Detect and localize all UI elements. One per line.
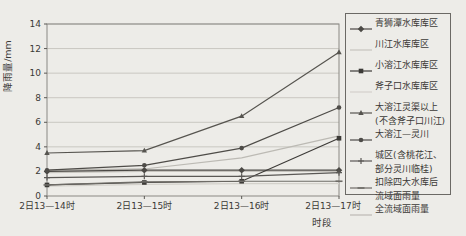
legend-entry-2: 小溶江水库库区 bbox=[349, 59, 448, 80]
series-line-1 bbox=[47, 171, 339, 172]
svg-text:2日13—15时: 2日13—15时 bbox=[117, 200, 173, 211]
legend-swatch-plus-marker bbox=[349, 151, 375, 170]
series-line-5 bbox=[47, 108, 339, 171]
legend-entry-4: 大溶江灵渠以上(不含斧子口川江) bbox=[349, 101, 448, 128]
svg-text:6: 6 bbox=[35, 117, 41, 127]
legend-swatch-diamond-marker bbox=[349, 19, 375, 38]
x-axis-ticks-labels: 2日13—14时2日13—15时2日13—16时2日13—17时 bbox=[19, 196, 361, 211]
rainfall-line-chart-figure: 024681012142日13—14时2日13—15时2日13—16时2日13—… bbox=[0, 0, 466, 236]
legend-label: 大溶江灵渠以上(不含斧子口川江) bbox=[375, 101, 445, 128]
legend-swatch-none-marker bbox=[349, 40, 375, 59]
legend-label: 扣除四大水库后流域面雨量 bbox=[375, 176, 438, 203]
y-axis-ticks-labels: 02468101214 bbox=[30, 19, 47, 201]
y-gridlines bbox=[47, 24, 339, 171]
legend-entry-6: 城区(含桃花江、部分灵川临桂) bbox=[349, 149, 448, 176]
series-markers-2 bbox=[45, 136, 342, 187]
svg-text:2: 2 bbox=[35, 166, 41, 176]
legend-entry-0: 青狮潭水库库区 bbox=[349, 17, 448, 38]
svg-text:4: 4 bbox=[35, 142, 41, 152]
legend-label: 川江水库库区 bbox=[375, 38, 429, 52]
legend-swatch-square-marker bbox=[349, 61, 375, 80]
series-markers-5 bbox=[45, 105, 342, 172]
series-markers-4 bbox=[44, 49, 341, 155]
legend-swatch-circle-marker bbox=[349, 130, 375, 149]
legend-entry-3: 斧子口水库库区 bbox=[349, 80, 448, 101]
legend-label: 小溶江水库库区 bbox=[375, 59, 438, 73]
legend-entry-1: 川江水库库区 bbox=[349, 38, 448, 59]
svg-text:10: 10 bbox=[30, 68, 42, 78]
chart-legend: 青狮潭水库库区川江水库库区小溶江水库库区斧子口水库库区大溶江灵渠以上(不含斧子口… bbox=[345, 13, 451, 195]
y-axis-title: 降雨量/mm bbox=[2, 40, 13, 92]
legend-label: 斧子口水库库区 bbox=[375, 80, 438, 94]
x-axis-title: 时段 bbox=[312, 217, 332, 228]
legend-label: 城区(含桃花江、部分灵川临桂) bbox=[375, 149, 442, 176]
legend-swatch-none-marker bbox=[349, 82, 375, 101]
legend-entry-8: 全流域面雨量 bbox=[349, 203, 448, 224]
svg-text:2日13—16时: 2日13—16时 bbox=[214, 200, 270, 211]
legend-entry-7: 扣除四大水库后流域面雨量 bbox=[349, 176, 448, 203]
svg-text:12: 12 bbox=[30, 44, 41, 54]
series-line-6 bbox=[47, 173, 339, 178]
series-line-8 bbox=[47, 136, 339, 170]
svg-text:8: 8 bbox=[35, 93, 41, 103]
svg-text:14: 14 bbox=[30, 19, 42, 29]
legend-label: 青狮潭水库库区 bbox=[375, 17, 438, 31]
legend-swatch-none-marker bbox=[349, 205, 375, 224]
svg-text:0: 0 bbox=[35, 191, 41, 201]
legend-label: 全流域面雨量 bbox=[375, 203, 429, 217]
legend-swatch-dash-marker bbox=[349, 178, 375, 197]
legend-entry-5: 大溶江—灵川 bbox=[349, 128, 448, 149]
series-line-4 bbox=[47, 52, 339, 153]
legend-swatch-triangle-marker bbox=[349, 103, 375, 122]
legend-label: 大溶江—灵川 bbox=[375, 128, 429, 142]
svg-text:2日13—14时: 2日13—14时 bbox=[19, 200, 75, 211]
